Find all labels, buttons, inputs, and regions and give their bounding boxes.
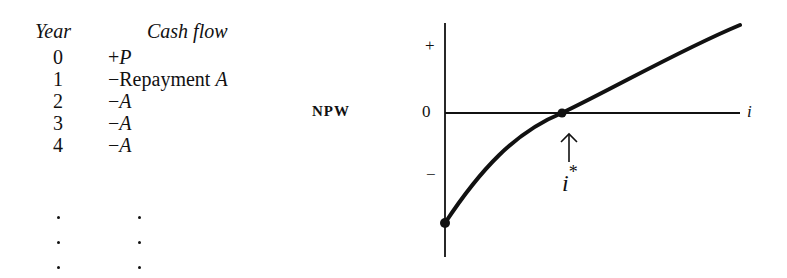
cash-flow-variable: A [119,112,131,134]
npw-curve [445,25,740,223]
table-row: 3 −A [0,112,290,134]
cash-flow-variable: A [119,134,131,156]
table-row: 2 −A [0,90,290,112]
cash-flow-variable: A [215,68,227,90]
year-cell: 4 [50,134,66,157]
year-cell: 0 [50,46,66,69]
y-axis-label: NPW [312,103,350,120]
cash-flow-variable: P [119,46,131,68]
cash-flow-cell: −A [108,134,132,157]
ellipsis-dot [138,241,141,244]
y-tick-plus: + [425,36,435,56]
table-row: 0 +P [0,46,290,68]
root-label: i* [562,166,578,197]
ellipsis-dot [57,216,60,219]
root-point [558,109,567,118]
year-cell: 3 [50,112,66,135]
cash-flow-cell: −A [108,90,132,113]
root-label-base: i [562,170,569,196]
sign: − [108,112,119,134]
ellipsis-dot [57,241,60,244]
graph-canvas [290,0,787,278]
cash-flow-text: Repayment [119,68,215,90]
sign: − [108,90,119,112]
ellipsis-dot [138,216,141,219]
root-label-sup: * [569,162,578,182]
sign: − [108,68,119,90]
year-cell: 2 [50,90,66,113]
table-row: 1 −Repayment A [0,68,290,90]
sign: + [108,46,119,68]
y-tick-minus: − [426,165,436,185]
x-axis-label: i [747,102,752,122]
y-tick-zero: 0 [422,102,431,122]
ellipsis-dot [138,266,141,269]
cash-flow-cell: −Repayment A [108,68,228,91]
cash-flow-cell: −A [108,112,132,135]
npw-graph: NPW + 0 − i i* [290,0,787,278]
cash-flow-table: Year Cash flow 0 +P 1 −Repayment A 2 −A … [0,0,290,278]
cash-flow-header: Cash flow [147,20,228,43]
cash-flow-cell: +P [108,46,132,69]
cash-flow-variable: A [119,90,131,112]
table-row: 4 −A [0,134,290,156]
start-point [440,218,450,228]
year-cell: 1 [50,68,66,91]
up-arrow-icon [561,134,577,162]
sign: − [108,134,119,156]
ellipsis-dot [57,266,60,269]
year-header: Year [35,20,71,43]
